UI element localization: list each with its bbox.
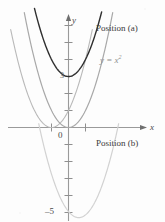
y-axis-label: y <box>72 16 76 25</box>
origin-label: 0 <box>58 131 63 140</box>
x-axis-arrowhead <box>140 125 147 130</box>
y-tick-label-three: 3 <box>60 72 64 80</box>
annotation-base-curve: y = x2 <box>100 56 122 65</box>
y-tick-label-minus-five: –5 <box>45 207 54 216</box>
annotation-position-b: Position (b) <box>96 139 138 148</box>
curve-shifted-left <box>11 30 93 128</box>
annotation-position-a: Position (a) <box>96 24 138 33</box>
annotation-base-curve-exponent: 2 <box>119 54 122 60</box>
axes-group <box>8 14 147 221</box>
parabola-transformation-figure: y x 0 –5 3 Position (a) Position (b) y =… <box>0 0 165 222</box>
annotation-base-curve-text: y = x <box>100 55 119 65</box>
y-axis-arrowhead <box>66 14 71 21</box>
plot-canvas <box>0 0 165 222</box>
x-axis-label: x <box>150 123 154 132</box>
curves-group <box>11 9 119 218</box>
